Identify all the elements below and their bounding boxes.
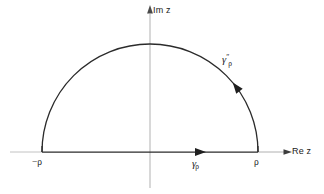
contour-drawing-canvas [0,0,324,194]
real-axis-label: Re z [292,147,311,156]
imaginary-axis-label: Im z [153,6,171,15]
right-endpoint-label: ρ [254,158,259,168]
arc-curve-label-subscript: ρ [228,59,232,68]
arc-curve-label: γ″ρ [222,54,232,67]
arrow-right-icon [284,149,293,155]
segment-curve-label: γρ [192,159,199,171]
left-endpoint-label: −ρ [32,158,42,168]
segment-curve-label-subscript: ρ [195,162,199,171]
segment-direction-arrow-icon [195,148,206,156]
arc-direction-arrow-icon [229,80,242,94]
complex-plane-contour-figure: Im z Re z −ρ ρ γ″ρ γρ [0,0,324,194]
